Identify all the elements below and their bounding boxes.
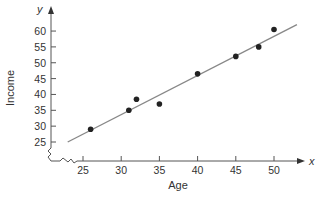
y-axis-title: Income <box>4 70 16 106</box>
x-tick-label: 35 <box>154 164 166 176</box>
y-tick-label: 30 <box>34 120 46 132</box>
y-tick-label: 25 <box>34 136 46 148</box>
data-point <box>271 27 277 33</box>
scatter-chart: 2530354045505560 253035404550 x y Age In… <box>0 0 328 197</box>
x-ticks: 253035404550 <box>77 156 280 176</box>
data-point <box>134 96 140 102</box>
x-axis-letter: x <box>308 155 315 167</box>
data-point <box>195 71 201 77</box>
y-tick-label: 60 <box>34 25 46 37</box>
y-tick-label: 35 <box>34 104 46 116</box>
regression-line <box>68 25 297 142</box>
data-point <box>157 101 163 107</box>
y-axis-letter: y <box>36 3 44 15</box>
x-tick-label: 50 <box>268 164 280 176</box>
y-tick-label: 45 <box>34 73 46 85</box>
x-tick-label: 45 <box>230 164 242 176</box>
data-point <box>233 54 239 60</box>
y-ticks: 2530354045505560 <box>34 25 56 148</box>
data-point <box>256 44 262 50</box>
x-tick-label: 40 <box>192 164 204 176</box>
data-point <box>88 127 94 133</box>
x-axis-title: Age <box>168 179 188 191</box>
y-tick-label: 50 <box>34 57 46 69</box>
x-axis-arrow-icon <box>297 158 305 164</box>
y-axis-arrow-icon <box>48 6 54 14</box>
data-point <box>126 108 132 114</box>
x-tick-label: 25 <box>77 164 89 176</box>
data-points <box>88 27 277 132</box>
axes: 2530354045505560 253035404550 x y Age In… <box>4 3 315 191</box>
y-tick-label: 55 <box>34 41 46 53</box>
y-tick-label: 40 <box>34 88 46 100</box>
x-tick-label: 30 <box>115 164 127 176</box>
axis-break-icon <box>48 148 80 163</box>
